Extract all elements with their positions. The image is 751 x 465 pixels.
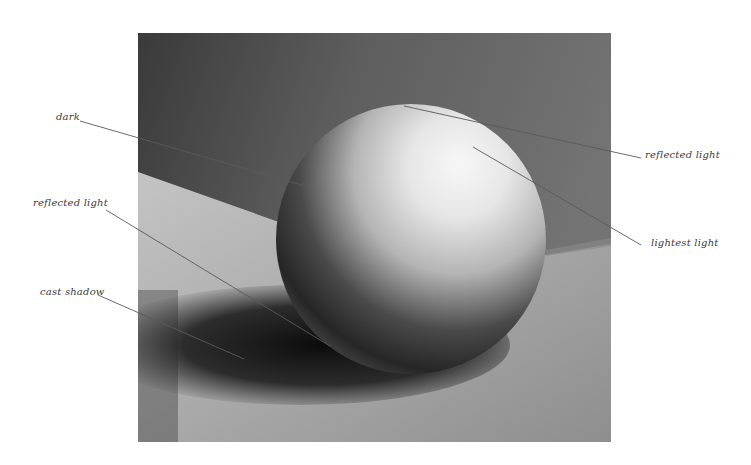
shadow-edge	[138, 290, 178, 442]
label-dark: dark	[56, 112, 80, 122]
label-reflected-light-right: reflected light	[645, 150, 720, 160]
label-lightest-light: lightest light	[651, 238, 719, 248]
label-cast-shadow: cast shadow	[40, 287, 105, 297]
label-reflected-light-left: reflected light	[33, 198, 108, 208]
annotated-sphere-figure: dark reflected light cast shadow reflect…	[0, 0, 751, 465]
figure-canvas	[0, 0, 751, 465]
photo	[90, 33, 611, 442]
sphere	[276, 104, 546, 374]
